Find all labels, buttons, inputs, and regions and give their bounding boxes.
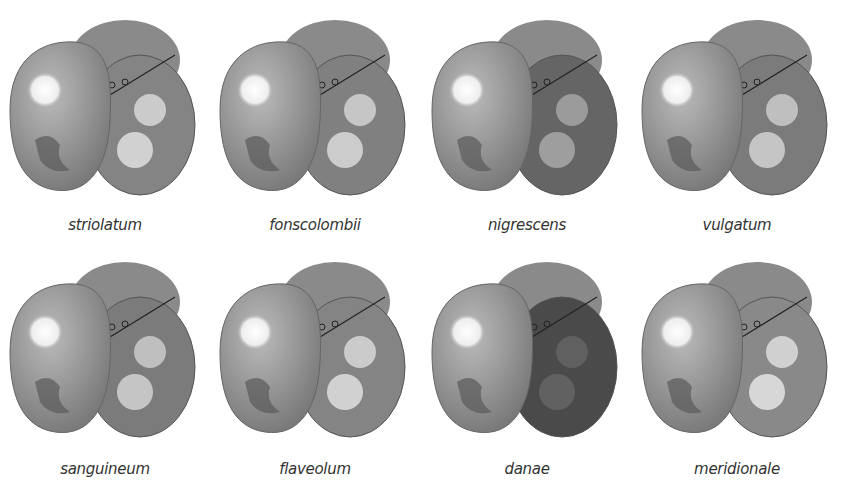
species-caption: meridionale (632, 460, 842, 478)
species-caption: fonscolombii (210, 216, 420, 234)
species-caption: vulgatum (632, 216, 842, 234)
specimen-fonscolombii: fonscolombii (210, 0, 420, 242)
species-caption: sanguineum (0, 460, 210, 478)
species-caption: flaveolum (210, 460, 420, 478)
specimen-sanguineum: sanguineum (0, 242, 210, 484)
specimen-nigrescens: nigrescens (422, 0, 632, 242)
specimen-flaveolum: flaveolum (210, 242, 420, 484)
species-caption: danae (422, 460, 632, 478)
species-caption: nigrescens (422, 216, 632, 234)
specimen-striolatum: striolatum (0, 0, 210, 242)
specimen-meridionale: meridionale (632, 242, 842, 484)
species-caption: striolatum (0, 216, 210, 234)
specimen-danae: danae (422, 242, 632, 484)
specimen-vulgatum: vulgatum (632, 0, 842, 242)
